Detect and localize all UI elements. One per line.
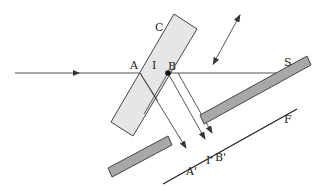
optics-diagram: C A I B S F A' I' B' bbox=[0, 0, 326, 193]
mirror-s-upper bbox=[200, 56, 311, 124]
label-c: C bbox=[155, 21, 163, 34]
screen-f bbox=[163, 109, 297, 184]
label-i-prime: I' bbox=[206, 154, 213, 167]
ray-direction-arrow-icon bbox=[73, 70, 80, 76]
label-a-prime: A' bbox=[185, 165, 197, 178]
ray-i-out bbox=[168, 73, 205, 139]
label-b: B bbox=[168, 60, 176, 73]
label-s: S bbox=[284, 56, 292, 69]
label-i: I bbox=[152, 59, 156, 72]
mirror-s-lower bbox=[108, 136, 172, 177]
label-b-prime: B' bbox=[215, 151, 226, 164]
ray-b-out bbox=[178, 73, 212, 133]
motion-arrow-icon bbox=[216, 15, 240, 59]
plate-c bbox=[111, 14, 197, 136]
label-a: A bbox=[129, 59, 139, 72]
label-f: F bbox=[284, 113, 292, 126]
